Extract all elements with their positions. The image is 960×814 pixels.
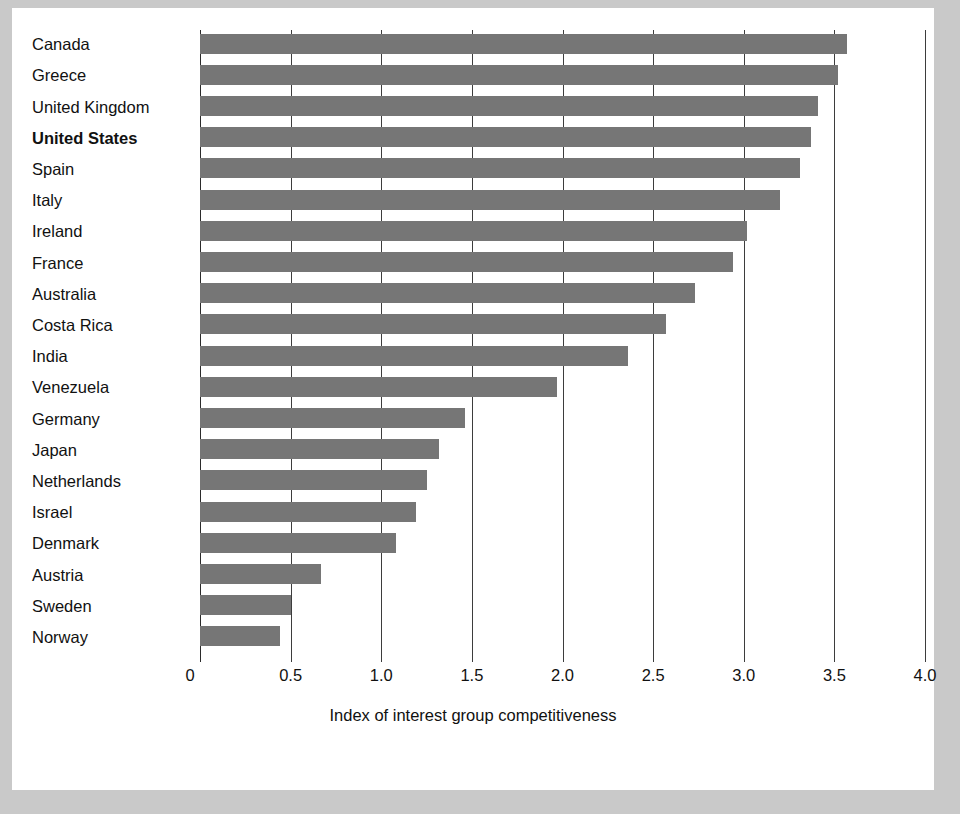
- x-tick-label: 2.5: [642, 666, 665, 685]
- bar: [200, 190, 780, 210]
- bar: [200, 408, 465, 428]
- plot-area: CanadaGreeceUnited KingdomUnited StatesS…: [12, 8, 934, 790]
- bar: [200, 502, 416, 522]
- bar: [200, 626, 280, 646]
- bar: [200, 252, 733, 272]
- category-label: Austria: [32, 566, 188, 585]
- category-label: Venezuela: [32, 378, 188, 397]
- category-label: Costa Rica: [32, 316, 188, 335]
- bar: [200, 564, 321, 584]
- category-label: Spain: [32, 160, 188, 179]
- category-label: Ireland: [32, 222, 188, 241]
- bar: [200, 595, 291, 615]
- category-label: Greece: [32, 66, 188, 85]
- x-tick-label: 3.5: [823, 666, 846, 685]
- x-tick-label: 3.0: [732, 666, 755, 685]
- category-label: Sweden: [32, 597, 188, 616]
- bar: [200, 65, 838, 85]
- category-label: Norway: [32, 628, 188, 647]
- bar: [200, 221, 747, 241]
- gridline-x: [834, 30, 835, 662]
- category-label-column: CanadaGreeceUnited KingdomUnited StatesS…: [32, 8, 188, 790]
- bars-column: 00.51.01.52.02.53.03.54.0: [188, 8, 934, 790]
- category-label: Australia: [32, 285, 188, 304]
- bar: [200, 314, 666, 334]
- x-tick-label: 0.5: [279, 666, 302, 685]
- x-tick-label: 4.0: [914, 666, 937, 685]
- bar: [200, 533, 396, 553]
- bar: [200, 127, 811, 147]
- category-label: Netherlands: [32, 472, 188, 491]
- gridline-x: [925, 30, 926, 662]
- bar: [200, 470, 427, 490]
- category-label: India: [32, 347, 188, 366]
- category-label: Denmark: [32, 534, 188, 553]
- category-label: Canada: [32, 35, 188, 54]
- category-label: United Kingdom: [32, 98, 188, 117]
- bar: [200, 158, 800, 178]
- x-axis-title: Index of interest group competitiveness: [12, 706, 934, 725]
- category-label: United States: [32, 129, 188, 148]
- x-tick-label: 2.0: [551, 666, 574, 685]
- gridline-x: [653, 30, 654, 662]
- gridline-x: [744, 30, 745, 662]
- chart-figure: CanadaGreeceUnited KingdomUnited StatesS…: [12, 8, 934, 790]
- x-tick-label: 0: [185, 666, 194, 685]
- x-tick-label: 1.5: [460, 666, 483, 685]
- category-label: France: [32, 254, 188, 273]
- bar: [200, 439, 439, 459]
- bar: [200, 346, 628, 366]
- category-label: Germany: [32, 410, 188, 429]
- category-label: Israel: [32, 503, 188, 522]
- bar: [200, 283, 695, 303]
- bar: [200, 34, 847, 54]
- category-label: Japan: [32, 441, 188, 460]
- x-tick-label: 1.0: [370, 666, 393, 685]
- bar: [200, 96, 818, 116]
- category-label: Italy: [32, 191, 188, 210]
- bar: [200, 377, 557, 397]
